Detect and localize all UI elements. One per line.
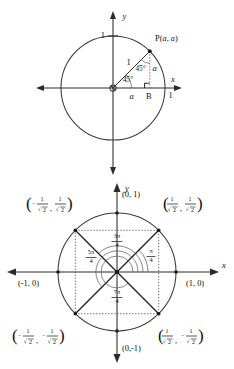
- x-axis-label-top: x: [170, 74, 175, 84]
- q1-y-radicand: 2: [191, 207, 194, 213]
- angle-label-at-P: 45°: [136, 65, 146, 73]
- angle-5pi-over-4-denominator: 4: [89, 257, 93, 264]
- y-axis-up-arrow-top: [110, 11, 116, 19]
- angle-pi-over-4-numerator: π: [149, 247, 153, 254]
- top-diagram: y x 1 1 P(a, a) P(a, a) 1 45° 45° a a B: [0, 0, 182, 175]
- point-left-marker: [56, 270, 60, 274]
- q1-x-radicand: 2: [173, 207, 176, 213]
- x-axis-label-bottom: x: [221, 260, 226, 270]
- angle-5pi-over-4-numerator: 5π: [88, 248, 95, 255]
- x-axis-left-arrow-bottom: [7, 269, 16, 276]
- x-axis-right-arrow-bottom: [210, 269, 219, 276]
- angle-7pi-over-4-denominator: 4: [115, 297, 119, 304]
- label-point-top: (0, 1): [122, 190, 140, 199]
- foot-point-label-B: B: [146, 92, 152, 101]
- point-P-marker: [148, 49, 152, 53]
- arc-pi-over-4: [128, 261, 133, 272]
- x-tick-label-one-top: 1: [169, 91, 173, 100]
- q2-x-sqrt: √: [38, 206, 42, 212]
- q2-comma: ,: [50, 204, 52, 213]
- point-q2-marker: [74, 229, 78, 233]
- y-axis-up-arrow-bottom: [114, 183, 121, 192]
- q2-y-radicand: 2: [61, 207, 64, 213]
- y-axis-label-top: y: [122, 11, 127, 21]
- q1-comma: ,: [180, 204, 182, 213]
- x-axis-right-arrow-top: [174, 85, 182, 91]
- origin-marker-bottom: [115, 270, 119, 274]
- point-q1-marker: [157, 229, 161, 233]
- math-figure-svg: y x 1 1 P(a, a) P(a, a) 1 45° 45° a a B: [0, 0, 234, 369]
- y-axis-down-arrow-top: [110, 167, 116, 175]
- q3-close-paren: ): [59, 326, 65, 345]
- coordinate-label-q4: ( 1 √ 2 , − 1 √ 2 ) (1/√2, −1/√2): [0, 0, 204, 345]
- q3-y-numerator: 1: [51, 328, 54, 334]
- q1-close-paren: ): [197, 194, 203, 213]
- q4-x-radicand: 2: [168, 339, 171, 345]
- angle-3pi-over-4-denominator: 4: [115, 241, 119, 248]
- angle-label-at-origin: 45°: [123, 76, 133, 84]
- point-bottom-marker: [115, 329, 119, 333]
- q4-close-paren: ): [198, 326, 204, 345]
- angle-pi-over-4-denominator: 4: [149, 256, 153, 263]
- label-point-left: (-1, 0): [18, 279, 39, 288]
- right-angle-marker-B: [145, 83, 150, 88]
- angle-label-5pi-over-4: 5π 4: [86, 248, 97, 264]
- q3-y-sign: −: [42, 332, 46, 338]
- q3-x-sign: −: [18, 332, 22, 338]
- q3-x-radicand: 2: [29, 339, 32, 345]
- q4-x-sqrt: √: [163, 338, 167, 344]
- q2-x-sign: −: [32, 200, 36, 206]
- horizontal-leg-label: a: [130, 91, 134, 101]
- angle-7pi-over-4-numerator: 7π: [114, 288, 121, 295]
- point-right-marker: [174, 270, 178, 274]
- q1-y-sqrt: √: [186, 206, 190, 212]
- q2-close-paren: ): [67, 194, 73, 213]
- label-point-right: (1, 0): [186, 279, 204, 288]
- q2-y-sqrt: √: [56, 206, 60, 212]
- hypotenuse-length-label: 1: [127, 58, 131, 67]
- q3-comma: ,: [36, 336, 38, 345]
- point-P-label: P(a, a): [155, 34, 178, 43]
- q1-x-numerator: 1: [171, 196, 174, 202]
- q4-y-sqrt: √: [187, 338, 191, 344]
- point-q4-marker: [157, 312, 161, 316]
- arc-pi-over-4-c: [136, 254, 143, 272]
- label-point-bottom: (0,-1): [122, 344, 141, 353]
- angle-3pi-over-4-numerator: 3π: [114, 232, 121, 239]
- y-tick-label-one-top: 1: [101, 31, 105, 40]
- y-axis-down-arrow-bottom: [114, 354, 121, 363]
- q1-y-numerator: 1: [189, 196, 192, 202]
- q4-y-sign: −: [181, 332, 185, 338]
- point-top-marker: [115, 211, 119, 215]
- angle-label-pi-over-4: π 4: [147, 247, 156, 263]
- q3-y-sqrt: √: [48, 338, 52, 344]
- vertical-leg-label: a: [153, 63, 157, 73]
- q4-comma: ,: [175, 336, 177, 345]
- coordinate-label-q2: ( − 1 √ 2 , 1 √ 2 ) (−1/√2, 1/√2): [0, 0, 73, 213]
- q3-x-sqrt: √: [24, 338, 28, 344]
- angle-arc-at-P: [141, 60, 150, 64]
- coordinate-label-q3: ( − 1 √ 2 , − 1 √ 2 ) (−1/√2, −1/√2): [0, 0, 65, 345]
- q4-x-numerator: 1: [166, 328, 169, 334]
- q2-y-numerator: 1: [59, 196, 62, 202]
- q4-y-numerator: 1: [190, 328, 193, 334]
- x-axis-left-arrow-top: [36, 85, 44, 91]
- point-q3-marker: [74, 312, 78, 316]
- figure-root: y x 1 1 P(a, a) P(a, a) 1 45° 45° a a B: [0, 0, 234, 369]
- q2-x-numerator: 1: [41, 196, 44, 202]
- q2-x-radicand: 2: [43, 207, 46, 213]
- q3-y-radicand: 2: [53, 339, 56, 345]
- q4-y-radicand: 2: [192, 339, 195, 345]
- q1-x-sqrt: √: [168, 206, 172, 212]
- q3-x-numerator: 1: [27, 328, 30, 334]
